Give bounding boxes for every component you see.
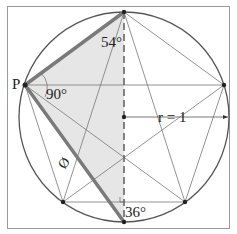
label-angle-36: 36° <box>125 204 146 220</box>
point-center <box>122 115 126 119</box>
point-bottom-right <box>183 200 187 204</box>
label-p: P <box>12 76 20 92</box>
label-phi: Ø <box>55 155 73 172</box>
label-radius: r = 1 <box>158 109 186 125</box>
point-right <box>222 83 226 87</box>
radius-arrowhead <box>223 115 228 119</box>
label-angle-54: 54° <box>101 34 122 50</box>
point-bottom <box>122 220 126 224</box>
point-top <box>122 10 126 14</box>
point-bottom-left <box>61 200 65 204</box>
pentagram-diagram: P 54° 90° 36° r = 1 Ø <box>0 0 237 234</box>
label-angle-90: 90° <box>46 86 67 102</box>
point-p <box>23 83 28 88</box>
